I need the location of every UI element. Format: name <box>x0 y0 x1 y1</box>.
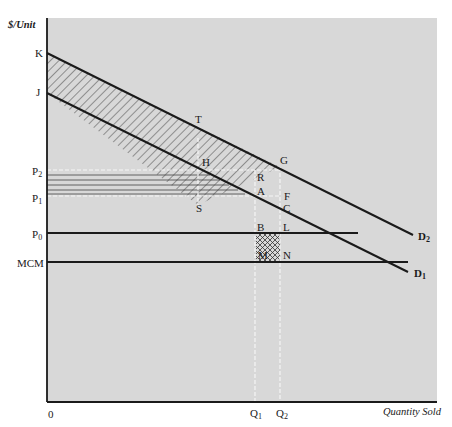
p0-sub: 0 <box>38 233 42 242</box>
point-label-h: H <box>202 157 210 168</box>
price-label-p0: P0 <box>32 229 42 242</box>
quantity-label-q2: Q2 <box>276 408 288 421</box>
d1-base: D <box>414 267 422 279</box>
curve-label-d2: D2 <box>418 231 430 244</box>
d2-sub: 2 <box>426 235 430 244</box>
q1-sub: 1 <box>258 412 262 421</box>
point-label-f: F <box>284 191 290 202</box>
price-label-mcm: MCM <box>17 258 44 269</box>
x-axis-label: Quantity Sold <box>383 407 441 418</box>
price-label-k: K <box>35 48 43 59</box>
point-label-c: C <box>283 203 290 214</box>
quantity-label-q1: Q1 <box>250 408 262 421</box>
economics-diagram: $/Unit Quantity Sold 0 K J P2 P1 P0 MCM … <box>0 0 452 427</box>
q2-sub: 2 <box>284 412 288 421</box>
point-label-n: N <box>283 250 291 261</box>
point-label-t: T <box>195 114 202 125</box>
point-label-r: R <box>257 172 264 183</box>
q1-base: Q <box>250 407 258 419</box>
d1-sub: 1 <box>422 272 426 281</box>
plot-panel <box>47 18 437 402</box>
curve-label-d1: D1 <box>414 268 426 281</box>
p1-sub: 1 <box>38 197 42 206</box>
y-axis-label: $/Unit <box>8 20 35 31</box>
point-label-s: S <box>196 203 202 214</box>
origin-label: 0 <box>48 409 54 420</box>
p2-sub: 2 <box>38 170 42 179</box>
d2-base: D <box>418 230 426 242</box>
q2-base: Q <box>276 407 284 419</box>
point-label-g: G <box>280 155 288 166</box>
price-label-p2: P2 <box>32 166 42 179</box>
point-label-m: M <box>258 250 268 261</box>
price-label-p1: P1 <box>32 193 42 206</box>
point-label-l: L <box>283 222 290 233</box>
price-label-j: J <box>36 87 40 98</box>
point-label-b: B <box>257 222 264 233</box>
point-label-a: A <box>257 186 265 197</box>
